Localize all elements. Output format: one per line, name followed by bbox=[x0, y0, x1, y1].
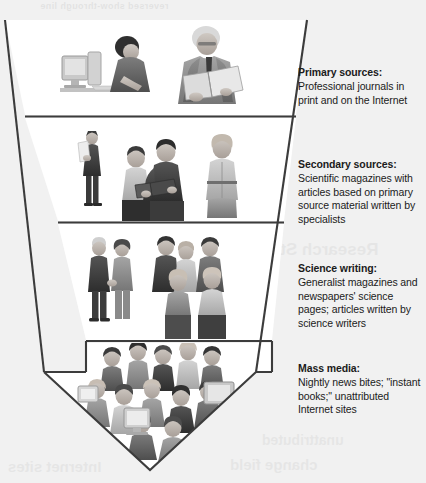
caption-secondary-title: Secondary sources: bbox=[298, 158, 424, 172]
caption-secondary-sources: Secondary sources: Scientific magazines … bbox=[298, 158, 424, 226]
caption-science-writing-body: Generalist magazines and newspapers' sci… bbox=[298, 276, 424, 330]
caption-mass-media: Mass media: Nightly news bites; "instant… bbox=[298, 362, 424, 417]
caption-primary-title: Primary sources: bbox=[298, 66, 424, 80]
caption-mass-media-body: Nightly news bites; "instant books;" una… bbox=[298, 376, 424, 417]
funnel-diagram: Primary sources: Professional journals i… bbox=[0, 0, 426, 483]
caption-primary-body: Professional journals in print and on th… bbox=[298, 80, 424, 107]
caption-mass-media-title: Mass media: bbox=[298, 362, 424, 376]
caption-primary-sources: Primary sources: Professional journals i… bbox=[298, 66, 424, 107]
caption-science-writing: Science writing: Generalist magazines an… bbox=[298, 262, 424, 330]
caption-secondary-body: Scientific magazines with articles based… bbox=[298, 172, 424, 226]
caption-science-writing-title: Science writing: bbox=[298, 262, 424, 276]
